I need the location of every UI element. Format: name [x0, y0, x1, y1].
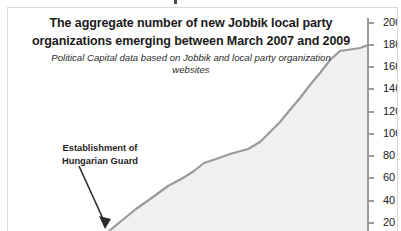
- y-axis-label-80: 80: [383, 149, 395, 161]
- screenshot-root: The aggregate number of new Jobbik local…: [0, 0, 401, 231]
- area-chart-plot[interactable]: [8, 8, 398, 231]
- annotation-arrow: [79, 166, 111, 229]
- y-axis-label-20: 20: [383, 216, 395, 228]
- y-axis-label-160: 160: [383, 60, 398, 72]
- y-axis-label-60: 60: [383, 171, 395, 183]
- y-axis-label-100: 100: [383, 127, 398, 139]
- y-axis-label-180: 180: [383, 38, 398, 50]
- y-axis-label-140: 140: [383, 82, 398, 94]
- y-axis-label-200: 200: [383, 16, 398, 28]
- cropped-mark: [174, 0, 177, 4]
- chart-frame[interactable]: The aggregate number of new Jobbik local…: [7, 7, 398, 231]
- cropped-element-above: [0, 0, 401, 7]
- y-axis-label-40: 40: [383, 194, 395, 206]
- y-axis-label-120: 120: [383, 105, 398, 117]
